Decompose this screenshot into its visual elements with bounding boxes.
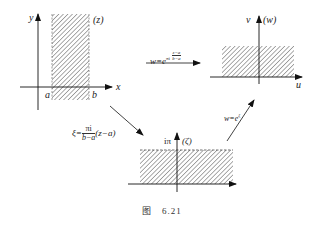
map-z-to-zeta-formula: ξ=πib−a(z−a) (72, 125, 115, 142)
z-plane-label: (z) (93, 15, 104, 25)
map-zeta-to-w-lhs: w=e (224, 114, 238, 123)
w-v-axis-label: v (246, 15, 250, 25)
w-plane-label: (w) (263, 15, 276, 25)
w-plane (210, 16, 302, 84)
map-z-to-zeta-fraction: πib−a (82, 125, 95, 142)
w-u-axis-label: u (296, 80, 301, 90)
map-z-to-zeta-rhs: (z−a) (95, 128, 115, 138)
map-z-to-w-exp-fraction: z−a b−a (172, 50, 180, 61)
zeta-plane-label: (ζ) (182, 137, 192, 146)
map-z-to-w-exp-den: b−a (172, 56, 180, 61)
figure-caption: 图 6.21 (0, 204, 324, 217)
z-x-axis-label: x (116, 82, 120, 92)
zeta-strip-region (140, 150, 233, 184)
map-z-to-w-formula: w=eπi z−a b−a (150, 50, 181, 66)
map-zeta-to-w-formula: w=eξ (224, 113, 240, 123)
map-z-to-zeta-lhs: ξ= (72, 128, 82, 138)
diagram-canvas (0, 0, 324, 227)
map-zeta-to-w-exp: ξ (238, 113, 240, 118)
caption-prefix: 图 (142, 206, 152, 216)
z-y-axis-label: y (29, 13, 33, 23)
map-z-to-w-exp-prefix: πi (166, 56, 170, 61)
map-z-to-w-lhs: w=e (150, 56, 166, 66)
z-plane (20, 14, 112, 110)
z-b-label: b (92, 90, 97, 100)
zeta-ipi-label: iπ (164, 137, 171, 146)
z-a-label: a (45, 90, 50, 100)
map-z-to-zeta-den: b−a (82, 134, 95, 142)
w-halfplane-region (222, 46, 294, 77)
caption-number: 6.21 (162, 206, 182, 216)
